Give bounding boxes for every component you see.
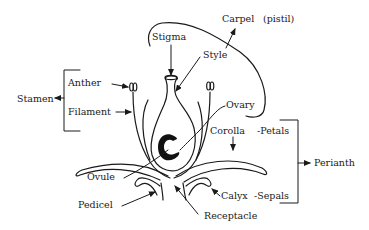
pedicel-left-line: [161, 183, 163, 200]
label-ovule: Ovule: [87, 172, 115, 182]
label-pedicel: Pedicel: [78, 200, 113, 210]
label-calyx: Calyx: [221, 191, 248, 201]
right-stamen-filament: [174, 92, 210, 178]
label-carpel: Carpel: [222, 14, 254, 24]
right-petal: [176, 161, 267, 182]
label-anther: Anther: [68, 78, 101, 88]
label-stamen: Stamen: [17, 94, 54, 104]
label-corolla: Corolla: [210, 126, 245, 136]
right-sepal: [186, 178, 211, 195]
label-stigma: Stigma: [152, 32, 186, 42]
label-filament: Filament: [68, 107, 111, 117]
left-sepal: [135, 178, 160, 195]
label-petals: -Petals: [257, 126, 289, 136]
label-style: Style: [203, 50, 227, 60]
label-ovary: Ovary: [226, 100, 255, 110]
label-perianth: Perianth: [314, 158, 355, 168]
flower-diagram: Stamen Anther Filament Stigma Style Carp…: [0, 0, 369, 230]
label-sepals: -Sepals: [254, 191, 289, 201]
label-receptacle: Receptacle: [204, 211, 257, 221]
label-pistil: (pistil): [263, 14, 294, 24]
ovule-shape: [158, 134, 179, 160]
